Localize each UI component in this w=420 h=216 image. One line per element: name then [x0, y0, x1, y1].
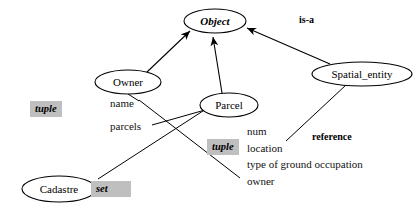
parcel-label: Parcel — [215, 99, 242, 111]
isa-edges — [147, 28, 330, 93]
edge-parcel-isa-object — [213, 37, 222, 93]
badge-parcel-tuple: tuple — [207, 139, 239, 155]
object-label: Object — [200, 15, 230, 27]
edge-parcels-to-parcel — [152, 110, 205, 125]
node-object[interactable]: Object — [184, 9, 246, 33]
parcel-attribute-type-of-ground-occupation: type of ground occupation — [247, 159, 363, 170]
label-reference: reference — [312, 131, 352, 142]
node-parcel[interactable]: Parcel — [200, 93, 258, 117]
owner-attribute-parcels: parcels — [110, 121, 141, 132]
spatial-entity-label: Spatial_entity — [331, 68, 393, 80]
edge-owner-isa-object — [147, 31, 190, 72]
badge-owner-tuple: tuple — [30, 101, 62, 117]
owner-attribute-name: name — [110, 98, 134, 109]
parcel-attribute-num: num — [247, 126, 267, 137]
parcel-attribute-owner: owner — [247, 176, 275, 187]
node-owner[interactable]: Owner — [95, 70, 161, 94]
cadastre-label: Cadastre — [40, 183, 79, 195]
badge-cadastre-set: set — [91, 181, 131, 197]
diagram-canvas: Object Owner Parcel Spatial_entity Cadas… — [0, 0, 420, 216]
label-is-a: is-a — [299, 14, 314, 25]
node-spatial-entity[interactable]: Spatial_entity — [312, 62, 412, 86]
owner-label: Owner — [113, 76, 143, 88]
edge-spatialentity-isa-object — [247, 28, 330, 64]
parcel-attribute-location: location — [247, 143, 282, 154]
node-cadastre[interactable]: Cadastre — [22, 176, 96, 202]
